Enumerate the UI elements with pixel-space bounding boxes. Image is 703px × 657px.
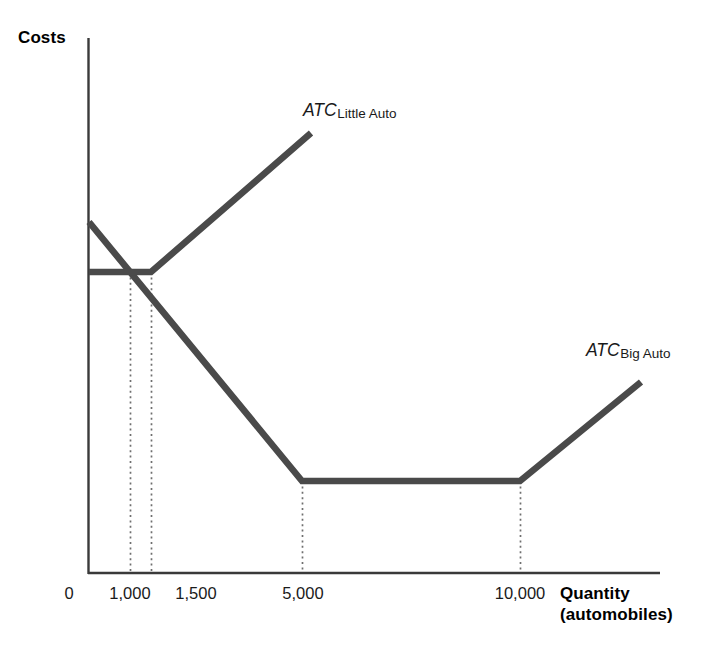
curve-label-little-auto-name: ATC (303, 100, 337, 120)
x-axis-title-line1: Quantity (560, 583, 673, 604)
cost-curve-figure: Costs Quantity (automobiles) 0 1,000 1,5… (0, 0, 703, 657)
atc-little-auto-curve (89, 133, 311, 272)
atc-big-auto-curve (89, 222, 641, 481)
tick-label-10000: 10,000 (475, 584, 565, 603)
curve-label-big-auto-subscript: Big Auto (620, 346, 671, 361)
atc-curves-plot (0, 0, 703, 657)
x-axis-title-line2: (automobiles) (560, 604, 673, 625)
tick-label-1500: 1,500 (158, 584, 234, 603)
curve-label-little-auto-subscript: Little Auto (337, 106, 397, 121)
tick-label-1000: 1,000 (92, 584, 168, 603)
curve-label-little-auto: ATCLittle Auto (303, 100, 397, 121)
curve-label-big-auto: ATCBig Auto (586, 340, 671, 361)
tick-label-0: 0 (57, 584, 81, 603)
curve-label-big-auto-name: ATC (586, 340, 620, 360)
x-axis-title: Quantity (automobiles) (560, 583, 673, 626)
y-axis-title: Costs (18, 28, 66, 48)
tick-label-5000: 5,000 (265, 584, 341, 603)
